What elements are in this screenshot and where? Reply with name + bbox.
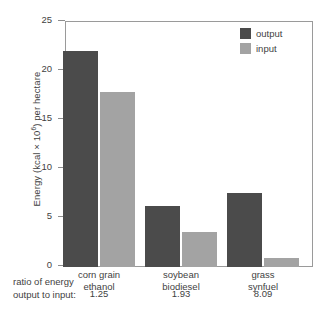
y-axis-tick-label: 0 [30, 259, 52, 270]
bars-layer [66, 22, 312, 267]
legend-swatch-output-icon [240, 28, 251, 39]
bar-input-grass-synfuel [264, 258, 299, 267]
legend-swatch-input-icon [240, 43, 251, 54]
bar-output-grass-synfuel [227, 193, 262, 267]
bar-input-soybean-biodiesel [182, 232, 217, 267]
legend-label-input: input [256, 43, 277, 54]
legend-label-output: output [256, 28, 282, 39]
ratio-value-1: 1.93 [135, 288, 227, 299]
ratio-row-label-line1: ratio of energy [13, 276, 76, 289]
ratio-value-0: 1.25 [53, 288, 145, 299]
y-axis-tick-label: 20 [30, 63, 52, 74]
energy-balance-bar-chart: Energy (kcal × 106) per hectare 05101520… [0, 0, 333, 311]
legend-item-output: output [240, 27, 282, 40]
y-axis-tick-label: 25 [30, 14, 52, 25]
bar-input-corn-grain-ethanol [100, 92, 135, 267]
x-axis-label-line: grass [217, 269, 309, 281]
y-axis-tick-label: 15 [30, 112, 52, 123]
legend: output input [240, 27, 282, 57]
ratio-value-2: 8.09 [217, 288, 309, 299]
bar-output-corn-grain-ethanol [63, 51, 98, 267]
legend-item-input: input [240, 42, 282, 55]
y-axis-tick-label: 5 [30, 210, 52, 221]
y-axis-title-exponent: 6 [30, 127, 37, 131]
bar-output-soybean-biodiesel [145, 206, 180, 267]
y-axis-tick-label: 10 [30, 161, 52, 172]
x-axis-label-line: soybean [135, 269, 227, 281]
y-axis-tick-mark [58, 20, 65, 21]
